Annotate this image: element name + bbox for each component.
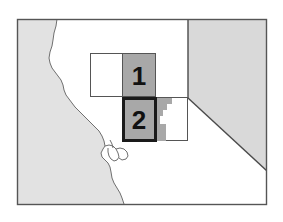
tile-1-label: 1 xyxy=(132,61,146,91)
locator-map-figure: 1 2 xyxy=(0,0,283,222)
map-canvas: 1 2 xyxy=(0,0,283,222)
tile-2-label: 2 xyxy=(132,105,146,135)
